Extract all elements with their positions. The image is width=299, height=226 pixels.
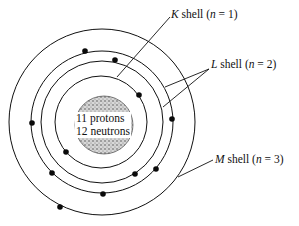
nucleus-label: 11 protons 12 neutrons [75, 112, 131, 138]
electron [100, 191, 106, 197]
electron [136, 92, 142, 98]
m-shell-leader [178, 160, 213, 177]
electron [112, 57, 118, 63]
k-shell-leader [117, 17, 170, 77]
m-shell-letter: M [215, 153, 225, 165]
l-shell-leader-inner [163, 69, 209, 107]
diagram-graphics [0, 0, 299, 226]
m-shell-label: M shell (n = 3) [215, 153, 283, 165]
nucleus-neutrons: 12 neutrons [76, 125, 130, 138]
electron [29, 120, 35, 126]
electron [49, 170, 55, 176]
electron [132, 171, 138, 177]
electron [57, 204, 63, 210]
electron [153, 166, 159, 172]
nucleus-protons: 11 protons [76, 112, 130, 125]
k-shell-letter: K [171, 8, 179, 20]
atom-diagram: 11 protons 12 neutrons K shell (n = 1) L… [0, 0, 299, 226]
k-shell-label: K shell (n = 1) [171, 8, 238, 20]
electron [169, 116, 175, 122]
l-shell-label: L shell (n = 2) [211, 58, 276, 70]
electron [82, 48, 88, 54]
electron [63, 149, 69, 155]
